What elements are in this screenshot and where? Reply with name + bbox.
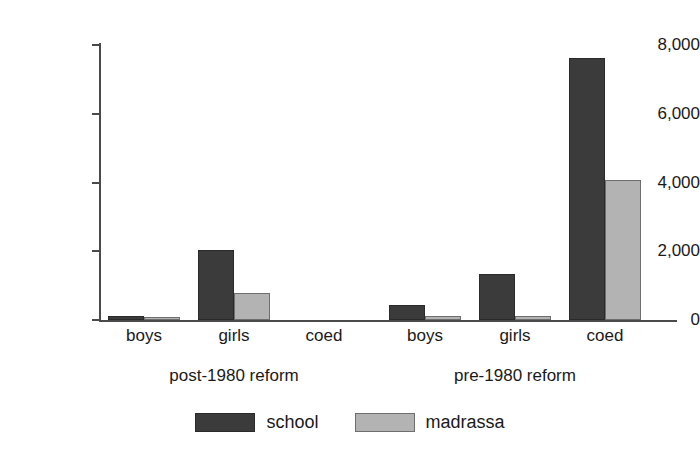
bar-madrassa-girls-pre1980 bbox=[515, 316, 551, 320]
bar-madrassa-coed-pre1980 bbox=[605, 180, 641, 320]
category-label: boys bbox=[94, 326, 194, 346]
category-label: coed bbox=[274, 326, 374, 346]
y-tick-mark bbox=[92, 250, 100, 252]
category-label: girls bbox=[465, 326, 565, 346]
bar-madrassa-girls-post1980 bbox=[234, 293, 270, 321]
bar-madrassa-boys-post1980 bbox=[144, 317, 180, 320]
category-label: coed bbox=[555, 326, 655, 346]
legend-swatch-icon bbox=[355, 413, 415, 432]
legend-swatch-icon bbox=[195, 413, 255, 432]
y-tick-mark bbox=[92, 319, 100, 321]
category-label: boys bbox=[375, 326, 475, 346]
legend-label: school bbox=[266, 412, 318, 432]
bar-school-boys-post1980 bbox=[108, 316, 144, 320]
plot-area bbox=[101, 43, 677, 320]
x-axis-line bbox=[99, 320, 677, 322]
y-tick-mark bbox=[92, 113, 100, 115]
bar-school-coed-pre1980 bbox=[569, 58, 605, 320]
group-label: pre-1980 reform bbox=[415, 366, 615, 386]
legend-item-madrassa[interactable]: madrassa bbox=[355, 412, 505, 432]
y-tick-mark bbox=[92, 182, 100, 184]
bar-school-girls-pre1980 bbox=[479, 274, 515, 320]
group-label: post-1980 reform bbox=[134, 366, 334, 386]
y-tick-mark bbox=[92, 44, 100, 46]
legend-item-school[interactable]: school bbox=[195, 412, 318, 432]
bar-school-girls-post1980 bbox=[198, 250, 234, 320]
category-label: girls bbox=[184, 326, 284, 346]
bar-chart: 8,0006,0004,0002,0000 boysgirlscoedboysg… bbox=[0, 0, 700, 471]
bar-madrassa-boys-pre1980 bbox=[425, 316, 461, 320]
legend-label: madrassa bbox=[426, 412, 505, 432]
chart-legend: schoolmadrassa bbox=[0, 412, 700, 432]
bar-school-boys-pre1980 bbox=[389, 305, 425, 320]
